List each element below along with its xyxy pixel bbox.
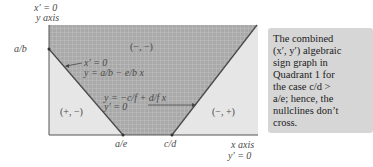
caption-line: The combined <box>273 33 369 45</box>
x-axis-label-bottom: y′ = 0 <box>228 151 251 161</box>
point-a-b <box>48 48 51 51</box>
tick-a-e: a/e <box>115 139 127 149</box>
x-axis-label: x axis <box>231 140 254 150</box>
point-a-e <box>122 134 125 137</box>
caption-line: Quadrant 1 for <box>273 69 369 81</box>
caption-line: the case c/d > <box>273 81 369 93</box>
x-nullcline-label-2: y = a/b − e/b x <box>84 68 144 78</box>
tick-a-b: a/b <box>14 44 27 54</box>
caption-line: cross. <box>273 117 369 129</box>
caption-line: a/e; hence, the <box>273 93 369 105</box>
caption-box: The combined (x′, y′) algebraic sign gra… <box>268 28 373 133</box>
caption-line: sign graph in <box>273 57 369 69</box>
y-nullcline-label-2: y′ = 0 <box>104 102 127 112</box>
tick-c-d: c/d <box>164 139 176 149</box>
y-axis-label: y axis <box>36 13 59 23</box>
region-label-left: (+, −) <box>60 107 83 117</box>
region-label-top: (−, −) <box>130 42 153 52</box>
sign-graph <box>0 0 262 167</box>
caption-line: (x′, y′) algebraic <box>273 45 369 57</box>
point-c-d <box>171 134 174 137</box>
caption-line: nullclines don’t <box>273 105 369 117</box>
region-label-right: (−, +) <box>212 107 235 117</box>
